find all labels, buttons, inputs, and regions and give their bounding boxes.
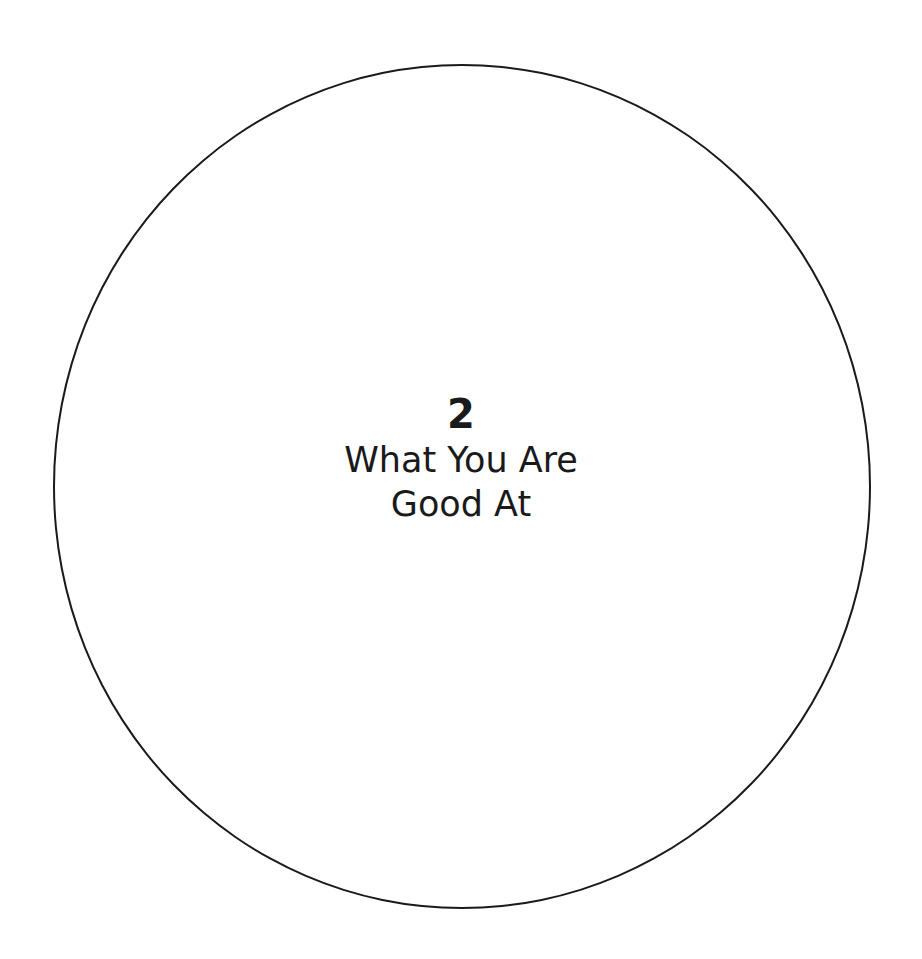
circle-title-line-2: Good At: [0, 482, 922, 526]
circle-label: 2 What You Are Good At: [0, 390, 922, 526]
circle-number: 2: [0, 390, 922, 438]
circle-title-line-1: What You Are: [0, 438, 922, 482]
